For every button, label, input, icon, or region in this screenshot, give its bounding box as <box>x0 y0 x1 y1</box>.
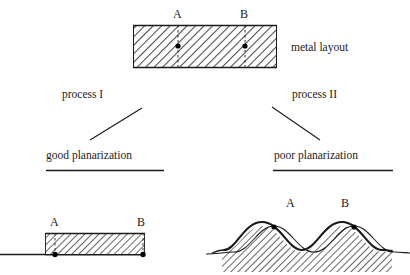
point-b-marker-flat <box>140 252 145 257</box>
process-ii-label: process II <box>292 89 337 101</box>
top-metal-layout-group <box>133 25 277 68</box>
point-b-marker-top <box>242 43 247 48</box>
bottom-right-wavy-band-group <box>206 210 410 272</box>
point-a-marker-flat <box>52 252 57 257</box>
metal-layout-hatch-fill <box>133 25 277 68</box>
bottom-left-flat-slab-group <box>0 233 146 257</box>
flat-slab-hatch-fill <box>45 233 145 255</box>
metal-layout-caption: metal layout <box>291 42 348 54</box>
point-a-label-top: A <box>173 8 182 20</box>
process-ii-arrow-line <box>272 107 320 140</box>
point-b-label-flat: B <box>137 216 145 228</box>
good-planarization-label: good planarization <box>46 150 132 162</box>
poor-planarization-label: poor planarization <box>274 150 358 162</box>
point-b-label-top: B <box>240 8 248 20</box>
process-i-arrow-line <box>90 108 142 140</box>
planarization-diagram: A B metal layout process I process II go… <box>0 0 410 275</box>
point-a-label-wave: A <box>286 197 295 209</box>
point-a-marker-top <box>175 43 180 48</box>
diagram-canvas <box>0 0 410 275</box>
point-b-marker-wave <box>351 224 356 229</box>
point-a-marker-wave <box>271 224 276 229</box>
process-i-label: process I <box>62 89 103 101</box>
branch-lines-group <box>90 107 320 140</box>
point-a-label-flat: A <box>50 216 59 228</box>
point-b-label-wave: B <box>341 197 349 209</box>
